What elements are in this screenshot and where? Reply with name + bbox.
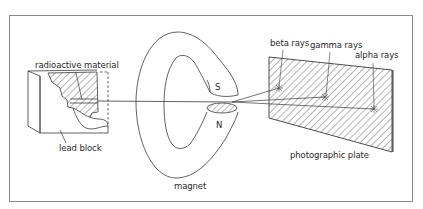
radioactivity-diagram — [0, 0, 423, 209]
label-beta-rays: beta rays — [270, 38, 309, 48]
gamma-impact-mark — [321, 93, 329, 101]
lead-block-leader — [60, 130, 66, 143]
label-north-pole: N — [216, 120, 222, 130]
north-pole-face — [207, 103, 237, 113]
label-radioactive-material: radioactive material — [35, 60, 119, 70]
label-gamma-rays: gamma rays — [310, 40, 362, 50]
label-alpha-rays: alpha rays — [355, 50, 398, 60]
label-lead-block: lead block — [59, 143, 101, 153]
radioactive-material — [48, 72, 98, 118]
label-south-pole: S — [215, 82, 220, 92]
emission-beam — [98, 101, 232, 102]
label-magnet: magnet — [174, 181, 206, 191]
label-photographic-plate: photographic plate — [290, 150, 369, 160]
